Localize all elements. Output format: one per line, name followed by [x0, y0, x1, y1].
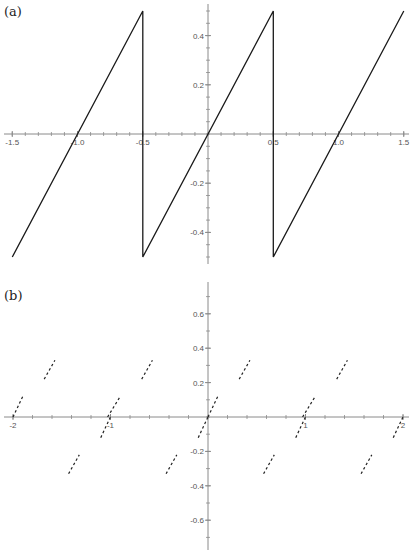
y-tick-label: 0.2 [193, 379, 205, 388]
x-tick-label: -2 [9, 421, 17, 430]
panel-label-b: (b) [4, 288, 22, 303]
dashed-segment [108, 396, 121, 417]
y-tick-label: 0.4 [193, 344, 205, 353]
y-tick-label: 0.6 [193, 310, 205, 319]
y-tick-label: -0.2 [190, 447, 204, 456]
dashed-segment [264, 455, 275, 474]
panel-b: (b) -2-1120.60.40.2-0.2-0.4-0.6 [0, 278, 413, 555]
dashed-segment [303, 396, 316, 417]
dashed-segment [337, 360, 348, 379]
chart-b: -2-1120.60.40.2-0.2-0.4-0.6 [0, 278, 413, 555]
x-tick-label: -1.5 [5, 138, 19, 147]
y-tick-label: -0.2 [190, 179, 204, 188]
panel-label-a: (a) [4, 4, 22, 19]
x-tick-label: 1 [303, 421, 308, 430]
dashed-segment [166, 455, 177, 474]
dashed-segment [142, 360, 153, 379]
dashed-segment [361, 455, 372, 474]
y-tick-label: -0.4 [190, 228, 204, 237]
dashed-segment [44, 360, 55, 379]
dashed-segment [239, 360, 250, 379]
y-tick-label: 0.4 [193, 32, 205, 41]
x-tick-label: 2 [401, 421, 406, 430]
chart-a: -1.5-1.0-0.50.51.01.50.40.2-0.2-0.4 [0, 0, 413, 278]
x-tick-label: 1.5 [398, 138, 410, 147]
dashed-segment [13, 396, 23, 417]
y-tick-label: 0.2 [193, 81, 205, 90]
y-tick-label: -0.6 [190, 516, 204, 525]
y-tick-label: -0.4 [190, 482, 204, 491]
dashed-segment [69, 455, 80, 474]
panel-a: (a) -1.5-1.0-0.50.51.01.50.40.2-0.2-0.4 [0, 0, 413, 278]
